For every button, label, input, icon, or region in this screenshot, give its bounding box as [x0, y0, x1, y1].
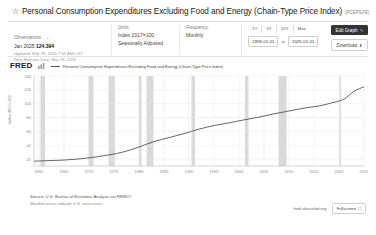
svg-text:2020: 2020	[335, 169, 345, 174]
fred-bar-icon	[38, 63, 46, 69]
recession-band	[340, 76, 342, 166]
svg-text:20: 20	[27, 157, 32, 162]
observations-toggle[interactable]: Observations ⌄	[14, 25, 105, 43]
units-adjustment: Seasonally Adjusted	[118, 40, 173, 48]
edit-graph-button[interactable]: Edit Graph ✎	[331, 25, 368, 35]
chart-footer: Source: U.S. Bureau of Economic Analysis…	[8, 194, 368, 216]
date-to-input[interactable]: 2025-01-01	[288, 36, 318, 47]
frequency-value: Monthly	[186, 32, 235, 40]
date-from-input[interactable]: 1959-01-01	[248, 36, 278, 47]
fred-series-page: ☆ Personal Consumption Expenditures Excl…	[0, 0, 376, 235]
action-buttons: Edit Graph ✎ Download ⬇	[331, 25, 368, 51]
recession-band	[147, 76, 154, 166]
svg-text:2005: 2005	[260, 169, 270, 174]
latest-period: Jan 2025	[14, 43, 35, 49]
range-button-group: 1Y 5Y 10Y Max	[248, 25, 318, 33]
fred-logo: FRED	[10, 62, 33, 70]
range-10y-button[interactable]: 10Y	[277, 25, 294, 33]
recession-band	[245, 76, 249, 166]
recession-band	[139, 76, 142, 166]
fullscreen-icon: ⛶	[358, 206, 361, 211]
range-1y-button[interactable]: 1Y	[248, 25, 262, 33]
date-range-inputs: 1959-01-01 to 2025-01-01	[248, 36, 318, 47]
line-chart-plot[interactable]: 1401201008060402019601965197019751980198…	[8, 72, 368, 192]
download-label: Download	[337, 43, 357, 48]
units-column: Units: Index 2017=100, Seasonally Adjust…	[112, 25, 180, 55]
page-title-row: ☆ Personal Consumption Expenditures Excl…	[8, 6, 368, 21]
fullscreen-label: Fullscreen	[337, 206, 356, 211]
svg-text:60: 60	[27, 129, 32, 134]
svg-text:40: 40	[27, 143, 32, 148]
chart-header: FRED Personal Consumption Expenditures E…	[10, 62, 223, 70]
footer-right: fred.stlouisfed.org Fullscreen ⛶	[293, 203, 366, 214]
recession-band	[41, 76, 46, 166]
svg-text:140: 140	[24, 74, 31, 79]
fullscreen-button[interactable]: Fullscreen ⛶	[332, 203, 366, 214]
chart-controls: 1Y 5Y 10Y Max 1959-01-01 to 2025-01-01 E…	[242, 25, 368, 51]
range-and-date-controls: 1Y 5Y 10Y Max 1959-01-01 to 2025-01-01	[248, 25, 318, 51]
svg-text:120: 120	[24, 87, 31, 92]
edit-graph-label: Edit Graph	[336, 28, 358, 33]
observations-column: Observations ⌄ Jan 2025 124.394 Updated:…	[8, 25, 112, 55]
download-icon: ⬇	[359, 43, 362, 48]
frequency-label: Frequency:	[186, 25, 235, 32]
svg-text:1975: 1975	[110, 169, 120, 174]
svg-text:1965: 1965	[60, 169, 70, 174]
svg-text:1995: 1995	[210, 169, 220, 174]
download-button[interactable]: Download ⬇	[331, 39, 368, 51]
latest-value: 124.394	[36, 43, 54, 49]
units-label: Units:	[118, 25, 173, 32]
units-value: Index 2017=100,	[118, 32, 173, 40]
svg-text:1960: 1960	[35, 169, 45, 174]
svg-text:2015: 2015	[310, 169, 320, 174]
pencil-icon: ✎	[360, 28, 363, 33]
svg-text:2025: 2025	[360, 169, 368, 174]
svg-text:1990: 1990	[185, 169, 195, 174]
svg-text:2010: 2010	[285, 169, 295, 174]
chevron-down-icon: ⌄	[46, 35, 49, 40]
chart-legend: Personal Consumption Expenditures Exclud…	[51, 64, 224, 69]
favorite-star-icon[interactable]: ☆	[12, 8, 19, 16]
frequency-column: Frequency: Monthly	[180, 25, 242, 55]
svg-text:1985: 1985	[160, 169, 170, 174]
legend-line-swatch	[51, 66, 60, 67]
date-range-separator: to	[281, 39, 285, 44]
svg-text:1970: 1970	[85, 169, 95, 174]
series-id: (PCEPILFE)	[345, 10, 369, 15]
fred-url: fred.stlouisfed.org	[293, 206, 326, 211]
observations-label: Observations	[14, 35, 41, 40]
svg-text:2000: 2000	[235, 169, 245, 174]
recession-band	[279, 76, 287, 166]
svg-text:80: 80	[27, 115, 32, 120]
svg-text:1980: 1980	[135, 169, 145, 174]
range-max-button[interactable]: Max	[294, 25, 310, 33]
legend-label: Personal Consumption Expenditures Exclud…	[63, 64, 224, 69]
chart-container: FRED Personal Consumption Expenditures E…	[8, 62, 368, 192]
page-title: Personal Consumption Expenditures Exclud…	[22, 7, 342, 16]
recession-band	[192, 76, 196, 166]
latest-observation: Jan 2025 124.394	[14, 43, 105, 51]
range-5y-button[interactable]: 5Y	[262, 25, 276, 33]
series-meta-bar: Observations ⌄ Jan 2025 124.394 Updated:…	[8, 21, 368, 57]
svg-text:100: 100	[24, 101, 31, 106]
series-line	[34, 87, 364, 161]
